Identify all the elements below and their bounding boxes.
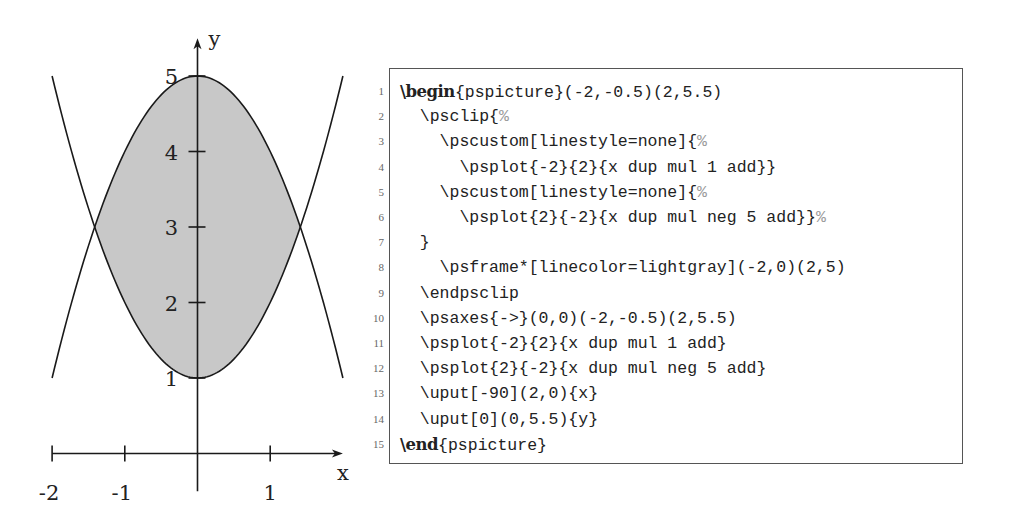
x-axis-label: x: [337, 461, 349, 485]
code-text: \uput[-90](2,0){x}: [400, 381, 598, 406]
y-tick-label: 1: [165, 367, 178, 391]
code-text: \pscustom[linestyle=none]{%: [400, 129, 707, 154]
y-tick-label: 4: [165, 141, 178, 165]
line-number: 4: [368, 155, 384, 180]
code-text: \endpsclip: [400, 281, 519, 306]
line-number: 7: [368, 230, 384, 255]
x-tick-label: -2: [39, 481, 59, 505]
code-text: }: [400, 230, 430, 255]
line-number: 12: [368, 356, 384, 381]
line-number: 5: [368, 180, 384, 205]
code-text: \psclip{%: [400, 104, 509, 129]
line-number: 14: [368, 407, 384, 432]
plot-canvas: -2-1112345xy: [0, 0, 380, 506]
code-text: \psplot{2}{-2}{x dup mul neg 5 add}: [400, 356, 766, 381]
code-text: \pscustom[linestyle=none]{%: [400, 180, 707, 205]
code-text: \psplot{-2}{2}{x dup mul 1 add}}: [400, 155, 776, 180]
code-text: \psaxes{->}(0,0)(-2,-0.5)(2,5.5): [400, 306, 737, 331]
axes: [52, 38, 343, 491]
y-tick-label: 2: [165, 292, 178, 316]
y-tick-label: 3: [165, 216, 178, 240]
line-number: 9: [368, 281, 384, 306]
x-tick-label: 1: [264, 481, 277, 505]
code-text: \end{pspicture}: [400, 432, 547, 458]
line-number: 13: [368, 381, 384, 406]
code-text: \psframe*[linecolor=lightgray](-2,0)(2,5…: [400, 255, 846, 280]
line-number: 11: [368, 331, 384, 356]
code-listing: 1\begin{pspicture}(-2,-0.5)(2,5.5)2 \psc…: [389, 68, 963, 464]
line-number: 3: [368, 129, 384, 154]
code-text: \uput[0](0,5.5){y}: [400, 407, 598, 432]
line-number: 1: [368, 79, 384, 104]
pspicture-figure: -2-1112345xy: [0, 0, 380, 506]
line-number: 10: [368, 306, 384, 331]
code-text: \begin{pspicture}(-2,-0.5)(2,5.5): [400, 79, 722, 105]
code-text: \psplot{-2}{2}{x dup mul 1 add}: [400, 331, 727, 356]
x-tick-label: -1: [112, 481, 132, 505]
code-text: \psplot{2}{-2}{x dup mul neg 5 add}}%: [400, 205, 826, 230]
line-number: 6: [368, 205, 384, 230]
line-number: 2: [368, 104, 384, 129]
y-axis-label: y: [208, 27, 221, 51]
line-number: 8: [368, 255, 384, 280]
y-tick-label: 5: [165, 65, 178, 89]
line-number: 15: [368, 432, 384, 457]
